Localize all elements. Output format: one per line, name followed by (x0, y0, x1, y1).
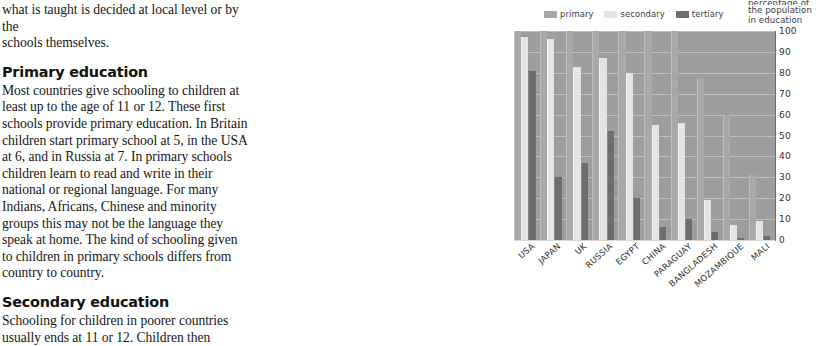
legend-item-primary[interactable]: primary (544, 9, 593, 19)
chart-legend: primarysecondarytertiary (544, 9, 724, 19)
y-tick-label-50: 50 (779, 131, 791, 141)
bar-egypt-primary[interactable] (618, 31, 625, 240)
y-tick-label-60: 60 (779, 110, 791, 120)
x-tick-label-usa: USA (516, 241, 536, 261)
x-tick-label-mali: MALI (749, 241, 772, 263)
legend-item-secondary[interactable]: secondary (604, 9, 664, 19)
legend-swatch-primary-icon (544, 11, 557, 18)
bar-mozambique-secondary[interactable] (730, 225, 737, 240)
bar-bangladesh-primary[interactable] (697, 79, 704, 240)
legend-label-primary: primary (560, 9, 593, 19)
bar-bangladesh-tertiary[interactable] (711, 232, 718, 240)
y-tick-label-20: 20 (779, 193, 791, 203)
legend-item-tertiary[interactable]: tertiary (676, 9, 724, 19)
y-tick-label-90: 90 (779, 47, 791, 57)
bar-japan-tertiary[interactable] (554, 177, 561, 240)
chart-bar-groups (514, 31, 775, 240)
heading-secondary-education: Secondary education (2, 294, 248, 311)
bar-group-uk (566, 31, 592, 240)
bar-group-usa (514, 31, 540, 240)
bar-mali-primary[interactable] (749, 175, 756, 240)
heading-primary-education: Primary education (2, 64, 248, 81)
y-tick-label-80: 80 (779, 68, 791, 78)
legend-swatch-secondary-icon (604, 11, 617, 18)
bar-china-tertiary[interactable] (659, 227, 666, 240)
y-tick-label-100: 100 (779, 26, 797, 36)
x-axis-labels: USAJAPANUKRUSSIAEGYPTCHINAPARAGUAYBANGLA… (514, 241, 814, 305)
x-tick-label-uk: UK (573, 241, 589, 257)
bar-paraguay-primary[interactable] (671, 31, 678, 240)
bar-usa-primary[interactable] (514, 31, 521, 240)
article-text-column: what is taught is decided at local level… (0, 0, 252, 305)
bar-japan-secondary[interactable] (547, 39, 554, 240)
bar-group-paraguay (671, 31, 697, 240)
y-tick-label-30: 30 (779, 172, 791, 182)
bar-russia-secondary[interactable] (599, 58, 606, 240)
y-tick-label-10: 10 (779, 214, 791, 224)
bar-egypt-tertiary[interactable] (633, 198, 640, 240)
bar-uk-primary[interactable] (566, 31, 573, 240)
y-tick-label-40: 40 (779, 151, 791, 161)
body-primary-education: Most countries give schooling to childre… (2, 83, 248, 282)
bar-group-bangladesh (697, 31, 723, 240)
education-bar-chart: percentage of the population in educatio… (252, 0, 573, 305)
bar-group-russia (592, 31, 618, 240)
bar-mali-secondary[interactable] (756, 221, 763, 240)
y-axis-ticks: 1009080706050403020100 (775, 31, 816, 244)
bar-group-egypt (618, 31, 644, 240)
bar-egypt-secondary[interactable] (626, 73, 633, 240)
y-tick-label-70: 70 (779, 89, 791, 99)
bar-russia-tertiary[interactable] (607, 131, 614, 240)
bar-mozambique-primary[interactable] (723, 115, 730, 240)
legend-label-tertiary: tertiary (692, 9, 724, 19)
bar-group-japan (540, 31, 566, 240)
bar-uk-secondary[interactable] (573, 67, 580, 240)
bar-china-secondary[interactable] (652, 125, 659, 240)
bar-group-mozambique (723, 31, 749, 240)
legend-label-secondary: secondary (620, 9, 664, 19)
x-tick-label-japan: JAPAN (537, 241, 563, 266)
x-tick-label-russia: RUSSIA (584, 241, 615, 270)
chart-axis-caption: percentage of the population in educatio… (748, 0, 816, 26)
x-tick-label-egypt: EGYPT (613, 241, 641, 267)
chart-plot-area (514, 31, 775, 240)
intro-line-2: schools themselves. (2, 35, 248, 52)
bar-uk-tertiary[interactable] (581, 163, 588, 240)
bar-group-mali (749, 31, 775, 240)
bar-paraguay-secondary[interactable] (678, 123, 685, 240)
bar-group-china (644, 31, 670, 240)
bar-russia-primary[interactable] (592, 31, 599, 240)
bar-japan-primary[interactable] (540, 31, 547, 240)
bar-usa-secondary[interactable] (521, 37, 528, 240)
bar-mozambique-tertiary[interactable] (737, 238, 744, 240)
bar-china-primary[interactable] (644, 31, 651, 240)
bar-bangladesh-secondary[interactable] (704, 200, 711, 240)
bar-mali-tertiary[interactable] (763, 236, 770, 240)
axis-caption-line-3: in education (748, 15, 802, 25)
body-secondary-education: Schooling for children in poorer countri… (2, 313, 248, 346)
bar-usa-tertiary[interactable] (528, 71, 535, 240)
axis-caption-line-2: the population (748, 5, 812, 15)
bar-paraguay-tertiary[interactable] (685, 219, 692, 240)
intro-line-1: what is taught is decided at local level… (2, 2, 248, 35)
legend-swatch-tertiary-icon (676, 11, 689, 18)
